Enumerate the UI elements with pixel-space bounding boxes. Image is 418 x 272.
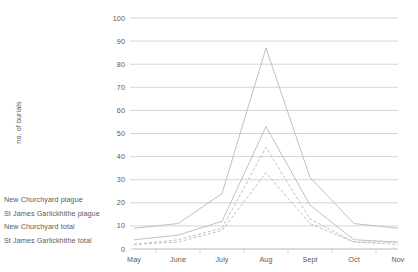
chart-series-line [134,127,398,243]
y-axis-tick-label: 70 [103,83,125,92]
x-axis-tick-label: Sept [290,255,330,264]
y-axis-tick-label: 80 [103,60,125,69]
x-axis-tick-label: Oct [334,255,374,264]
chart-plot-area: no. of burials 0102030405060708090100May… [0,0,418,272]
y-axis-tick-label: 60 [103,106,125,115]
y-axis-tick-label: 50 [103,129,125,138]
x-axis-tick-label: Aug [246,255,286,264]
y-axis-tick-label: 20 [103,198,125,207]
y-axis-label: no. of burials [14,93,23,153]
x-axis-tick-label: July [202,255,242,264]
chart-page: New Churchyard plague St James Garlickhi… [0,0,418,272]
y-axis-tick-label: 10 [103,221,125,230]
chart-series-line [134,48,398,228]
x-axis-tick-label: June [158,255,198,264]
y-axis-tick-label: 100 [103,14,125,23]
line-chart-svg [0,0,418,272]
x-axis-tick-label: Nov [378,255,418,264]
chart-series-line [134,147,398,244]
y-axis-tick-label: 0 [103,245,125,254]
chart-series-line [134,173,398,245]
y-axis-tick-label: 90 [103,37,125,46]
y-axis-tick-label: 40 [103,152,125,161]
y-axis-tick-label: 30 [103,175,125,184]
x-axis-tick-label: May [114,255,154,264]
